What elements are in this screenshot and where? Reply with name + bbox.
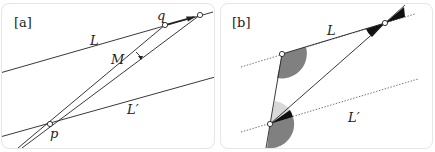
point-q	[162, 22, 167, 27]
point-upper-left	[279, 51, 284, 56]
label-M: M	[110, 52, 125, 67]
line-L-prime	[0, 77, 215, 137]
panel-b-figure: [b] L L′	[232, 5, 418, 148]
label-L: L	[89, 33, 99, 48]
point-lower	[267, 121, 272, 126]
label-p: p	[50, 126, 59, 141]
panel-b-tag: [b]	[232, 15, 250, 30]
label-L-prime: L′	[347, 110, 360, 125]
point-right	[382, 20, 387, 25]
label-L-prime: L′	[126, 102, 139, 117]
label-q: q	[157, 8, 165, 23]
diagram-canvas: [a] L M L′ p q [b] L L′	[0, 0, 435, 152]
line-rotated	[22, 15, 200, 148]
panel-a-tag: [a]	[14, 15, 32, 30]
point-tip	[197, 12, 202, 17]
panel-a-figure: [a] L M L′ p q	[0, 8, 215, 148]
label-L: L	[326, 23, 336, 38]
